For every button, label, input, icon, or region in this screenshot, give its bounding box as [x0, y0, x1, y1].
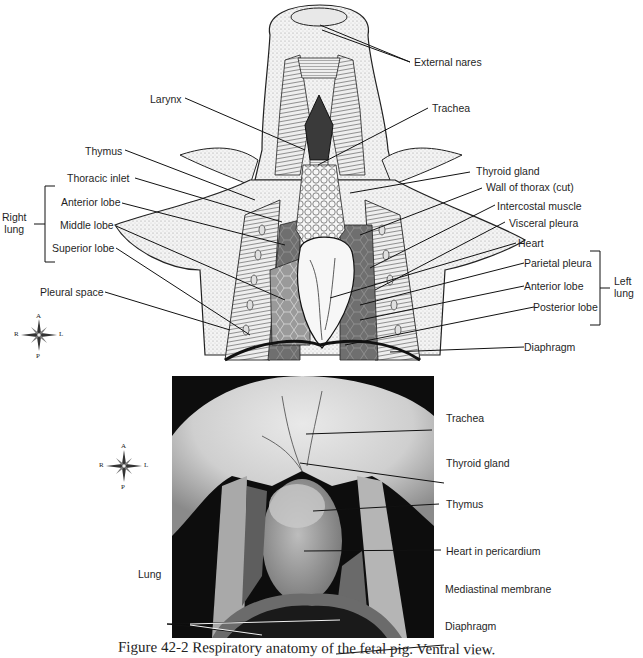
label-pleural-space: Pleural space [40, 286, 104, 298]
label-superior-lobe: Superior lobe [52, 242, 114, 254]
photo-compass-l: L [144, 461, 148, 469]
photo-label-thyroid-gland: Thyroid gland [446, 457, 510, 469]
photo-label-mediastinal-membrane: Mediastinal membrane [445, 583, 551, 595]
label-right-anterior-lobe: Anterior lobe [61, 196, 121, 208]
label-middle-lobe: Middle lobe [60, 219, 114, 231]
photo-compass-r: R [99, 461, 104, 469]
label-wall-of-thorax: Wall of thorax (cut) [486, 181, 574, 193]
label-diaphragm-illustration: Diaphragm [524, 341, 575, 353]
photo-compass-a: A [121, 442, 126, 450]
photo-label-heart-in-pericardium: Heart in pericardium [446, 545, 541, 557]
photo-label-thymus: Thymus [446, 498, 483, 510]
label-thoracic-inlet: Thoracic inlet [67, 172, 129, 184]
compass-r: R [14, 330, 19, 338]
label-parietal-pleura: Parietal pleura [524, 257, 592, 269]
left-lung-line2: lung [614, 287, 634, 299]
label-external-nares: External nares [414, 56, 482, 68]
label-intercostal-muscle: Intercostal muscle [497, 200, 582, 212]
label-thyroid-gland: Thyroid gland [476, 165, 540, 177]
label-left-anterior-lobe: Anterior lobe [524, 280, 584, 292]
label-heart: Heart [518, 237, 544, 249]
photo-label-lung: Lung [138, 568, 161, 580]
label-larynx: Larynx [150, 93, 182, 105]
compass-a: A [36, 312, 41, 320]
photo-label-diaphragm: Diaphragm [445, 620, 496, 632]
label-trachea: Trachea [432, 102, 470, 114]
label-visceral-pleura: Visceral pleura [509, 217, 578, 229]
photo-illustration [172, 376, 434, 638]
photo-compass-p: P [121, 483, 125, 491]
compass-p: P [36, 352, 40, 360]
right-lung-line1: Right [2, 211, 27, 223]
right-lung-line2: lung [2, 223, 27, 235]
label-left-lung: Left lung [614, 275, 634, 299]
photo-label-trachea: Trachea [446, 412, 484, 424]
figure-caption: Figure 42-2 Respiratory anatomy of the f… [118, 639, 496, 658]
dissection-photo [172, 376, 434, 638]
label-thymus: Thymus [85, 145, 122, 157]
label-right-lung: Right lung [2, 211, 27, 235]
label-posterior-lobe: Posterior lobe [533, 301, 598, 313]
compass-l: L [59, 330, 63, 338]
left-lung-line1: Left [614, 275, 634, 287]
